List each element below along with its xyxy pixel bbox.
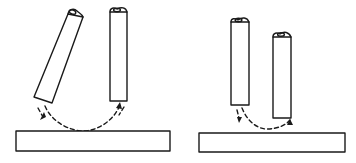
right-panel (199, 18, 345, 152)
base-bar-right (199, 133, 345, 152)
arrowhead-down-icon (237, 117, 242, 123)
tilted-rod (34, 9, 83, 103)
vertical-rod (110, 8, 127, 101)
arrow-stroke-left-right-panel (237, 110, 239, 118)
short-rod (273, 32, 291, 118)
motion-arc (45, 105, 120, 131)
arrowhead-down-left-icon (40, 112, 46, 120)
left-panel (16, 8, 170, 151)
diagram-canvas (0, 0, 356, 163)
base-bar-left (16, 131, 170, 151)
arrowhead-up-icon (116, 102, 122, 109)
tall-rod (231, 18, 249, 105)
